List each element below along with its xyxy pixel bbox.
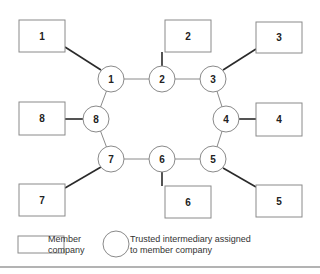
intermediary-label: 2 — [159, 74, 165, 85]
intermediary-label: 7 — [108, 154, 114, 165]
intermediary-4: 4 — [213, 106, 239, 132]
member-company-label: 4 — [276, 114, 282, 125]
intermediary-5: 5 — [200, 146, 226, 172]
legend: Member company Trusted intermediary assi… — [18, 231, 251, 257]
intermediaries: 12345678 — [83, 66, 239, 172]
legend-member-label-1: Member — [48, 234, 81, 244]
member-companies: 12345678 — [19, 20, 302, 218]
intermediary-3: 3 — [200, 66, 226, 92]
member-company-3: 3 — [256, 22, 302, 53]
intermediary-8: 8 — [83, 106, 109, 132]
legend-intermediary-label-1: Trusted intermediary assigned — [130, 234, 251, 244]
member-company-label: 7 — [39, 195, 45, 206]
intermediary-6: 6 — [149, 146, 175, 172]
member-company-7: 7 — [19, 184, 65, 216]
member-company-label: 8 — [39, 113, 45, 124]
member-company-8: 8 — [19, 102, 65, 135]
member-company-label: 1 — [39, 31, 45, 42]
member-company-5: 5 — [256, 185, 302, 217]
intermediary-label: 4 — [223, 114, 229, 125]
intermediary-2: 2 — [149, 66, 175, 92]
assignment-edge-7 — [65, 167, 101, 188]
member-company-label: 2 — [185, 31, 191, 42]
legend-member-label-2: company — [48, 245, 85, 255]
member-company-1: 1 — [19, 20, 65, 52]
ring-network-diagram: 12345678 12345678 Member company Trusted… — [0, 0, 320, 274]
member-company-4: 4 — [256, 103, 302, 136]
member-company-6: 6 — [165, 186, 211, 218]
intermediary-1: 1 — [98, 66, 124, 92]
intermediary-label: 5 — [210, 154, 216, 165]
intermediary-label: 1 — [108, 74, 114, 85]
assignment-edge-3 — [223, 49, 256, 70]
assignment-edge-1 — [65, 47, 101, 70]
member-company-2: 2 — [165, 20, 211, 52]
intermediary-label: 3 — [210, 74, 216, 85]
intermediary-label: 6 — [159, 154, 165, 165]
legend-intermediary-label-2: to member company — [130, 245, 213, 255]
member-company-label: 6 — [185, 197, 191, 208]
assignment-edge-5 — [223, 168, 256, 187]
intermediary-7: 7 — [98, 146, 124, 172]
member-company-label: 5 — [276, 196, 282, 207]
member-company-label: 3 — [276, 32, 282, 43]
legend-intermediary-swatch — [103, 231, 129, 257]
intermediary-label: 8 — [93, 114, 99, 125]
